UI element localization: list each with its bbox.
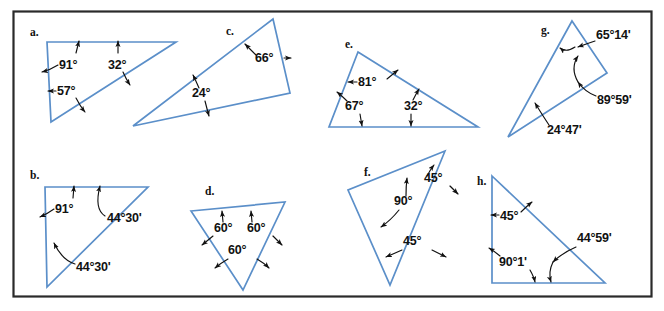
panel-g-leader-8959-arc2 (574, 56, 578, 82)
panel-c: c. 66° 24° (133, 19, 291, 126)
panel-e-triangle (329, 52, 478, 127)
panel-d: d. 60° 60° 60° (191, 185, 285, 290)
panel-f-angle-90: 90° (394, 194, 413, 208)
panel-e-leader-67-down (360, 114, 362, 126)
panel-f-angle-45-bottom: 45° (403, 234, 422, 248)
panel-b-leader-91-down (40, 209, 54, 217)
panel-d-leader-60-bottom-right (257, 259, 269, 268)
panel-c-leader-24-down (205, 101, 209, 116)
panel-h-leader-45-up (521, 202, 532, 212)
panel-g-angle-8959: 89°59' (597, 93, 632, 107)
panel-e-angle-81: 81° (358, 75, 377, 89)
panel-g-leader-2447-arc (535, 103, 549, 125)
panel-g-triangle (508, 21, 607, 137)
panel-h-angle-45: 45° (500, 209, 519, 223)
panel-a-triangle (47, 42, 176, 122)
panel-f-leader-90-arc (381, 210, 399, 227)
panel-g-angle-6514: 65°14' (596, 28, 631, 42)
figure-border (14, 12, 652, 297)
panel-f-leader-45-bottom-right (432, 250, 446, 257)
panel-a-angle-91: 91° (59, 58, 78, 72)
panel-f-leader-45-bottom-left (386, 250, 402, 257)
panel-f-label: f. (364, 166, 371, 178)
panel-b-label: b. (30, 169, 39, 181)
panel-b: b. 91° 44°30' 44°30' (30, 169, 148, 287)
panel-c-leader-66-up (245, 44, 256, 55)
panel-h-angle-9001: 90°1' (499, 255, 527, 269)
panel-d-angle-60-bottom: 60° (228, 243, 247, 257)
panel-e-label: e. (345, 38, 353, 50)
panel-b-angle-91: 91° (55, 202, 74, 216)
panel-e: e. 81° 67° 32° (329, 38, 478, 127)
figure-canvas: a. 91° 32° 57° c. 66° 24° e. (0, 0, 664, 311)
panel-a-label: a. (30, 26, 39, 38)
panel-b-angle-4430-top: 44°30' (107, 211, 142, 225)
panel-h-leader-4459-arc2 (550, 262, 553, 282)
panel-e-angle-67: 67° (345, 99, 364, 113)
panel-f-angle-45-top: 45° (424, 171, 443, 185)
panel-a-angle-32: 32° (108, 58, 127, 72)
panel-h-leader-4459-arc (553, 247, 576, 262)
panel-h-label: h. (477, 175, 486, 187)
panel-g-angle-2447: 24°47' (547, 123, 582, 137)
panel-f-leader-45-top-down (450, 186, 458, 194)
panel-c-angle-66: 66° (255, 51, 274, 65)
panel-d-label: d. (205, 185, 214, 197)
triangle-angles-figure: a. 91° 32° 57° c. 66° 24° e. (0, 0, 664, 311)
panel-f: f. 45° 90° 45° (348, 151, 458, 285)
panel-c-angle-24: 24° (192, 86, 211, 100)
panel-a-leader-91-down (42, 65, 58, 72)
panel-d-leader-60-right-down (273, 236, 282, 245)
panel-c-label: c. (226, 25, 234, 37)
panel-g-leader-6514-arc (560, 47, 575, 50)
panel-b-angle-4430-bottom: 44°30' (76, 260, 111, 274)
panel-e-angle-32: 32° (404, 99, 423, 113)
panel-a-angle-57: 57° (57, 84, 76, 98)
panel-a: a. 91° 32° 57° (30, 26, 176, 122)
panel-h-leader-9001-down (530, 270, 535, 282)
panel-g-label: g. (541, 24, 550, 37)
panel-b-leader-4430-bottom-arc (54, 243, 75, 264)
panel-h: h. 45° 90°1' 44°59' (477, 175, 612, 283)
panel-c-triangle (133, 19, 290, 126)
panel-b-leader-4430-top-arc (98, 186, 105, 216)
panel-d-angle-60-right: 60° (247, 221, 266, 235)
panel-d-angle-60-left: 60° (214, 221, 233, 235)
panel-h-angle-4459: 44°59' (577, 231, 612, 245)
panel-h-leader-9001-up (489, 248, 500, 256)
panel-g: g. 65°14' 89°59' 24°47' (508, 21, 632, 137)
